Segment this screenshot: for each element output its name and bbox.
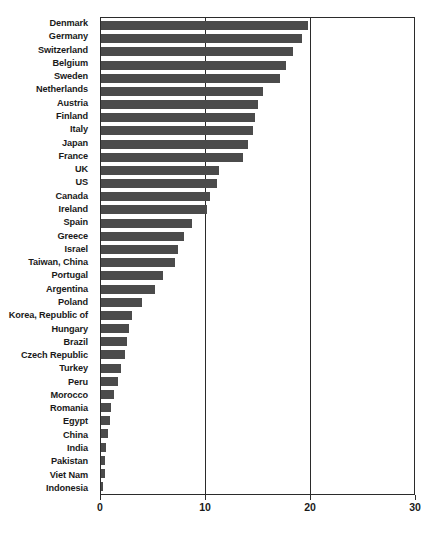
- bar-row: [101, 269, 414, 282]
- category-label: Pakistan: [51, 457, 88, 466]
- category-axis-labels: DenmarkGermanySwitzerlandBelgiumSwedenNe…: [0, 17, 94, 495]
- bar-row: [101, 45, 414, 58]
- category-label: India: [67, 444, 88, 453]
- category-label: UK: [75, 165, 88, 174]
- category-label-row: Pakistan: [0, 455, 94, 468]
- category-label-row: Switzerland: [0, 44, 94, 57]
- category-label-row: Japan: [0, 137, 94, 150]
- bar: [101, 192, 210, 201]
- bar-row: [101, 98, 414, 111]
- bar: [101, 47, 293, 56]
- bar-row: [101, 124, 414, 137]
- bar-row: [101, 59, 414, 72]
- bar: [101, 205, 207, 214]
- bar-row: [101, 256, 414, 269]
- bar-row: [101, 335, 414, 348]
- category-label-row: Finland: [0, 110, 94, 123]
- bar-row: [101, 151, 414, 164]
- category-label: Peru: [68, 378, 88, 387]
- bar: [101, 100, 258, 109]
- category-label: Italy: [70, 125, 88, 134]
- bar: [101, 337, 127, 346]
- bar: [101, 113, 255, 122]
- category-label: Israel: [65, 245, 88, 254]
- bar-row: [101, 19, 414, 32]
- category-label: Germany: [49, 32, 88, 41]
- category-label-row: Canada: [0, 190, 94, 203]
- bar-row: [101, 454, 414, 467]
- category-label: Austria: [57, 99, 88, 108]
- bar-row: [101, 217, 414, 230]
- category-label: Switzerland: [38, 46, 88, 55]
- category-label-row: US: [0, 176, 94, 189]
- bar: [101, 245, 178, 254]
- bar-row: [101, 388, 414, 401]
- category-label: Netherlands: [36, 85, 88, 94]
- category-label: Ireland: [59, 205, 88, 214]
- category-label: US: [75, 178, 88, 187]
- bar: [101, 219, 192, 228]
- category-label: Portugal: [52, 271, 88, 280]
- bar: [101, 126, 253, 135]
- bar-row: [101, 32, 414, 45]
- bar: [101, 232, 184, 241]
- category-label: Japan: [62, 139, 88, 148]
- category-label-row: Denmark: [0, 17, 94, 30]
- category-label: Romania: [50, 404, 88, 413]
- bar-row: [101, 427, 414, 440]
- category-label-row: Sweden: [0, 70, 94, 83]
- bar-row: [101, 230, 414, 243]
- category-label: Denmark: [49, 19, 88, 28]
- bar: [101, 390, 114, 399]
- bar-row: [101, 441, 414, 454]
- x-axis-tick-label: 30: [409, 501, 421, 513]
- x-axis-tick: [415, 495, 416, 500]
- bar: [101, 456, 105, 465]
- category-label: France: [58, 152, 88, 161]
- bar-row: [101, 296, 414, 309]
- category-label-row: Morocco: [0, 389, 94, 402]
- category-label: Finland: [56, 112, 88, 121]
- bar: [101, 271, 163, 280]
- bar: [101, 285, 155, 294]
- category-label: Viet Nam: [50, 471, 88, 480]
- category-label-row: Spain: [0, 216, 94, 229]
- category-label-row: UK: [0, 163, 94, 176]
- bar: [101, 61, 286, 70]
- category-label-row: Korea, Republic of: [0, 309, 94, 322]
- bar: [101, 166, 219, 175]
- bar: [101, 429, 108, 438]
- bar-row: [101, 322, 414, 335]
- category-label: Spain: [63, 218, 88, 227]
- category-label-row: Brazil: [0, 336, 94, 349]
- bar: [101, 416, 110, 425]
- plot-area: [100, 17, 415, 495]
- bar: [101, 350, 125, 359]
- x-axis-tick: [310, 495, 311, 500]
- bar: [101, 403, 111, 412]
- category-label-row: Taiwan, China: [0, 256, 94, 269]
- category-label: Belgium: [52, 59, 88, 68]
- category-label-row: Greece: [0, 230, 94, 243]
- bar: [101, 364, 121, 373]
- bar: [101, 443, 106, 452]
- category-label-row: Austria: [0, 97, 94, 110]
- category-label-row: Hungary: [0, 322, 94, 335]
- bar: [101, 377, 118, 386]
- category-label: Morocco: [50, 391, 88, 400]
- category-label: Canada: [55, 192, 88, 201]
- category-label-row: Netherlands: [0, 83, 94, 96]
- category-label-row: China: [0, 429, 94, 442]
- bar-row: [101, 111, 414, 124]
- bar: [101, 258, 175, 267]
- x-axis-tick-label: 20: [304, 501, 316, 513]
- bar-row: [101, 190, 414, 203]
- category-label: Hungary: [51, 325, 88, 334]
- x-axis-tick: [205, 495, 206, 500]
- bar: [101, 179, 217, 188]
- category-label: Argentina: [46, 285, 88, 294]
- category-label-row: Peru: [0, 376, 94, 389]
- category-label-row: Portugal: [0, 269, 94, 282]
- bar-row: [101, 164, 414, 177]
- category-label: Korea, Republic of: [9, 311, 88, 320]
